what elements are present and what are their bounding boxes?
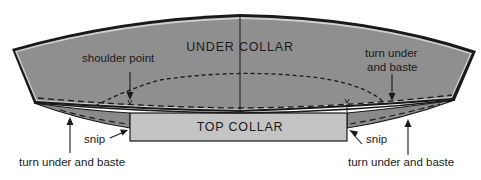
snip-left-label: snip: [84, 133, 105, 145]
shoulder-point-label: shoulder point: [82, 52, 155, 64]
under-collar-label: UNDER COLLAR: [186, 40, 294, 54]
top-collar-label: TOP COLLAR: [197, 120, 284, 134]
turn-under-upper-line2: and baste: [367, 61, 418, 73]
turn-under-bottom-left-arrow: [67, 117, 74, 153]
snip-left-arrow: [110, 130, 128, 139]
turn-under-bottom-right-arrow: [405, 119, 412, 155]
turn-under-bottom-left-label: turn under and baste: [19, 156, 125, 168]
turn-under-bottom-right-label: turn under and baste: [348, 156, 454, 168]
collar-diagram: UNDER COLLAR TOP COLLAR shoulder point t…: [0, 0, 481, 180]
snip-right-arrow: [349, 130, 362, 144]
snip-right-label: snip: [366, 133, 387, 145]
turn-under-upper-line1: turn under: [365, 47, 418, 59]
